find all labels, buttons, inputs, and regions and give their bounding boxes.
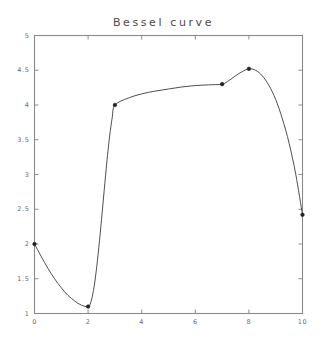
y-tick-label: 5 xyxy=(8,32,30,40)
data-point-marker xyxy=(33,242,37,246)
y-tick-label: 2 xyxy=(8,240,30,248)
x-tick-label: 8 xyxy=(239,318,259,326)
y-tick-label: 1 xyxy=(8,310,30,318)
bessel-curve xyxy=(35,69,303,307)
axes-frame xyxy=(35,36,303,314)
x-tick-label: 10 xyxy=(293,318,313,326)
data-point-marker xyxy=(86,305,90,309)
x-tick-label: 6 xyxy=(185,318,205,326)
y-tick-label: 4.5 xyxy=(8,66,30,74)
y-tick-label: 1.5 xyxy=(8,275,30,283)
data-point-marker xyxy=(220,82,224,86)
x-tick-label: 0 xyxy=(25,318,45,326)
chart-figure: Bessel curve 11.522.533.544.550246810 xyxy=(0,0,327,345)
data-point-marker xyxy=(113,103,117,107)
y-tick-label: 3 xyxy=(8,171,30,179)
y-tick-label: 2.5 xyxy=(8,205,30,213)
y-tick-label: 3.5 xyxy=(8,136,30,144)
data-point-marker xyxy=(301,213,305,217)
x-tick-label: 2 xyxy=(78,318,98,326)
data-point-marker xyxy=(247,67,251,71)
plot-canvas xyxy=(0,0,327,345)
x-tick-label: 4 xyxy=(132,318,152,326)
y-tick-label: 4 xyxy=(8,101,30,109)
